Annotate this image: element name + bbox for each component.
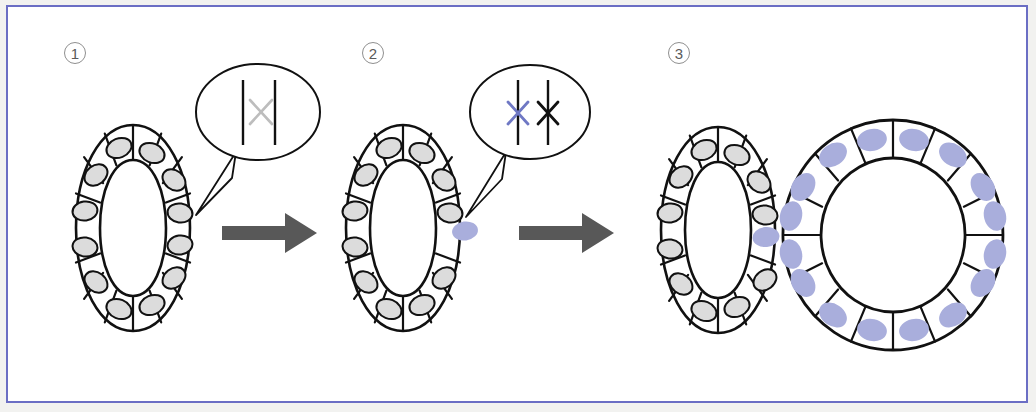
cell-dividers bbox=[783, 120, 1003, 350]
panel-3-group bbox=[656, 120, 1009, 350]
panel-number-1: 1 bbox=[64, 42, 86, 64]
diagram-canvas bbox=[0, 0, 1036, 412]
callout-bubble bbox=[196, 64, 320, 160]
normal-ring bbox=[71, 125, 193, 331]
arrow-shape bbox=[222, 213, 317, 253]
callout-tail bbox=[466, 152, 506, 217]
callout-tail bbox=[196, 152, 236, 215]
panel-2-group bbox=[341, 65, 590, 331]
diagram-svg bbox=[0, 0, 1036, 412]
residual-normal-ring bbox=[656, 127, 780, 333]
chromosome-callout-1 bbox=[196, 64, 320, 215]
arrow-1-to-2 bbox=[222, 213, 317, 253]
panel-number-3: 3 bbox=[668, 42, 690, 64]
single-mutant-ring bbox=[341, 125, 479, 331]
chromosome-callout-2 bbox=[466, 65, 590, 217]
callout-bubble bbox=[470, 65, 590, 159]
arrow-shape bbox=[519, 213, 614, 253]
expanded-mutant-ring bbox=[777, 120, 1010, 350]
panel-number-2: 2 bbox=[362, 42, 384, 64]
figure-root: 1 2 3 bbox=[0, 0, 1036, 412]
arrow-2-to-3 bbox=[519, 213, 614, 253]
panel-1-group bbox=[71, 64, 320, 331]
